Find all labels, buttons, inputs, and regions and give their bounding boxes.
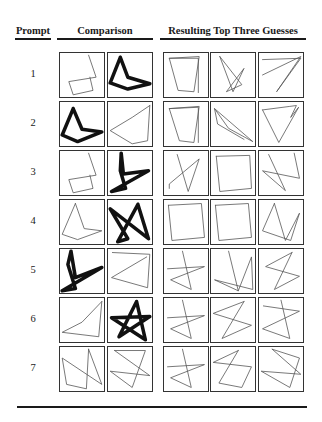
row-label: 3 [18, 166, 48, 177]
sketch-drawing [60, 53, 104, 97]
sketch-drawing [60, 298, 104, 342]
sketch-drawing [259, 249, 303, 293]
sketch-stroke [168, 300, 205, 338]
sketch-stroke [69, 153, 96, 193]
sketch-drawing [164, 347, 208, 391]
sketch-drawing [211, 347, 255, 391]
guess-sketch-cell [210, 150, 256, 196]
guess-sketch-cell [163, 101, 209, 147]
guess-sketch-cell [210, 52, 256, 98]
guess-sketch-cell [258, 150, 304, 196]
sketch-stroke [62, 251, 102, 291]
comparison-sketch-cell [107, 248, 153, 294]
sketch-drawing [164, 151, 208, 195]
sketch-stroke [263, 106, 299, 143]
sketch-drawing [211, 200, 255, 244]
row-label: 1 [18, 68, 48, 79]
sketch-drawing [60, 151, 104, 195]
sketch-drawing [164, 249, 208, 293]
sketch-drawing [60, 102, 104, 146]
sketch-drawing [108, 53, 152, 97]
comparison-sketch-cell [107, 101, 153, 147]
guess-sketch-cell [258, 52, 304, 98]
comparison-sketch-cell [59, 52, 105, 98]
guess-sketch-cell [163, 297, 209, 343]
sketch-stroke [213, 351, 251, 388]
sketch-drawing [60, 347, 104, 391]
sketch-stroke [263, 204, 300, 241]
guess-sketch-cell [258, 248, 304, 294]
header-guesses: Resulting Top Three Guesses [160, 25, 306, 36]
header-prompt: Prompt [12, 25, 54, 36]
row-label: 5 [18, 264, 48, 275]
sketch-stroke [110, 57, 150, 89]
row-label: 7 [18, 362, 48, 373]
guess-sketch-cell [258, 101, 304, 147]
comparison-sketch-cell [107, 150, 153, 196]
header-rule-guesses [160, 38, 306, 40]
sketch-drawing [259, 53, 303, 97]
sketch-drawing [108, 151, 152, 195]
sketch-stroke [263, 153, 300, 190]
sketch-drawing [60, 200, 104, 244]
sketch-drawing [108, 347, 152, 391]
sketch-stroke [261, 349, 301, 387]
guess-sketch-cell [210, 297, 256, 343]
row-label: 6 [18, 313, 48, 324]
sketch-stroke [110, 351, 150, 388]
guess-sketch-cell [163, 248, 209, 294]
row-label: 4 [18, 215, 48, 226]
header-comparison: Comparison [57, 25, 153, 36]
sketch-drawing [259, 200, 303, 244]
sketch-stroke [112, 302, 150, 340]
sketch-stroke [215, 109, 253, 142]
sketch-drawing [211, 151, 255, 195]
sketch-drawing [211, 298, 255, 342]
sketch-stroke [216, 155, 251, 191]
sketch-drawing [259, 151, 303, 195]
sketch-drawing [211, 102, 255, 146]
sketch-stroke [169, 155, 199, 192]
guess-sketch-cell [258, 297, 304, 343]
header-rule-prompt [15, 38, 51, 40]
guess-sketch-cell [258, 346, 304, 392]
sketch-stroke [69, 55, 96, 95]
header-rule-comparison [57, 38, 153, 40]
guess-sketch-cell [163, 52, 209, 98]
comparison-sketch-cell [107, 199, 153, 245]
sketch-stroke [168, 251, 205, 289]
sketch-stroke [215, 204, 251, 241]
comparison-sketch-cell [59, 150, 105, 196]
sketch-drawing [259, 347, 303, 391]
sketch-drawing [211, 53, 255, 97]
sketch-drawing [164, 200, 208, 244]
sketch-stroke [213, 302, 251, 339]
guess-sketch-cell [258, 199, 304, 245]
sketch-drawing [108, 200, 152, 244]
sketch-stroke [220, 57, 244, 92]
sketch-stroke [168, 349, 205, 387]
sketch-drawing [211, 249, 255, 293]
row-label: 2 [18, 117, 48, 128]
comparison-sketch-cell [107, 297, 153, 343]
guess-sketch-cell [210, 248, 256, 294]
sketch-stroke [266, 253, 300, 290]
sketch-stroke [112, 153, 149, 191]
sketch-drawing [259, 102, 303, 146]
comparison-sketch-cell [107, 346, 153, 392]
comparison-sketch-cell [59, 297, 105, 343]
guess-sketch-cell [210, 101, 256, 147]
sketch-drawing [108, 298, 152, 342]
guess-sketch-cell [163, 346, 209, 392]
sketch-stroke [263, 57, 301, 92]
sketch-stroke [215, 251, 253, 291]
sketch-stroke [169, 57, 199, 93]
sketch-stroke [62, 109, 102, 142]
sketch-drawing [108, 249, 152, 293]
guess-sketch-cell [163, 199, 209, 245]
comparison-sketch-cell [59, 346, 105, 392]
sketch-stroke [110, 106, 150, 144]
guess-sketch-cell [210, 346, 256, 392]
sketch-stroke [110, 204, 148, 241]
sketch-stroke [169, 106, 199, 142]
